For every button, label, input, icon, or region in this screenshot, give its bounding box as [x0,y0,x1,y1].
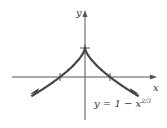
y-axis-arrow-icon [83,10,88,17]
x-axis-arrow-icon [150,75,157,80]
equation: y = 1 − x2/3 [93,97,151,109]
y-label: y [75,7,82,18]
right-arrow-icon [130,88,139,94]
x-label: x [153,82,159,93]
graph: y x y = 1 − x2/3 [0,0,167,128]
